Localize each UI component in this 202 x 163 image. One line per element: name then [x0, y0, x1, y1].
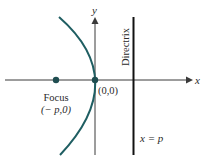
x-axis-label: x	[194, 74, 200, 86]
vertex-dot-icon	[92, 77, 98, 83]
directrix-equation: x = p	[139, 132, 164, 144]
y-axis-arrow-icon	[92, 17, 99, 24]
parabola-curve	[59, 17, 95, 155]
x-axis-arrow-icon	[186, 77, 193, 84]
focus-coords: (− p,0)	[41, 104, 71, 116]
vertex-coords: (0,0)	[98, 85, 119, 97]
focus-label: Focus	[43, 92, 68, 103]
directrix-label: Directrix	[120, 27, 131, 66]
y-axis-label: y	[91, 4, 97, 16]
directrix: Directrix x = p	[120, 17, 164, 155]
focus-point: Focus (− p,0)	[41, 77, 71, 116]
focus-dot-icon	[53, 77, 59, 83]
parabola-diagram: x y Directrix x = p Focus (− p,0) (0,0)	[0, 0, 202, 163]
